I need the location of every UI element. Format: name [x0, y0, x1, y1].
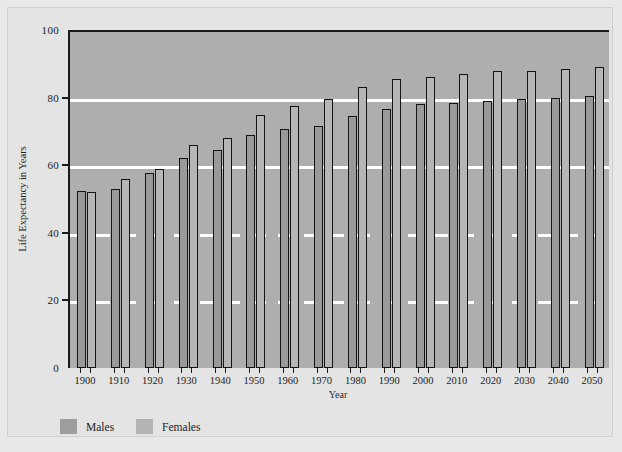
y-tick-label-100: 100 — [42, 24, 59, 36]
chart-legend: MalesFemales — [60, 419, 200, 434]
x-tick-mark-2010-1 — [462, 368, 463, 373]
bar-males-1920 — [145, 173, 154, 368]
x-tick-mark-2040-1 — [563, 368, 564, 373]
x-tick-mark-1970-0 — [317, 368, 318, 373]
bar-males-1950 — [246, 135, 255, 368]
x-tick-mark-1900-1 — [90, 368, 91, 373]
x-tick-mark-2050-0 — [587, 368, 588, 373]
y-axis-title: Life Expectancy in Years — [17, 146, 28, 252]
x-tick-mark-2050-1 — [597, 368, 598, 373]
x-tick-label-1920: 1920 — [142, 375, 163, 386]
x-tick-mark-2030-1 — [529, 368, 530, 373]
bar-males-2010 — [449, 103, 458, 368]
bar-males-1970 — [314, 126, 323, 368]
x-tick-mark-1940-0 — [215, 368, 216, 373]
x-tick-mark-2020-1 — [496, 368, 497, 373]
bar-females-1930 — [189, 145, 198, 368]
figure-frame: Life Expectancy in Years 020406080100 19… — [7, 7, 613, 437]
bar-males-2040 — [551, 98, 560, 368]
x-tick-mark-1960-1 — [293, 368, 294, 373]
bar-males-2020 — [483, 101, 492, 368]
bar-females-1980 — [358, 87, 367, 368]
x-tick-mark-1930-1 — [191, 368, 192, 373]
bar-females-2010 — [459, 74, 468, 368]
bar-females-2040 — [561, 69, 570, 368]
legend-swatch-females — [136, 419, 153, 434]
x-tick-label-2040: 2040 — [548, 375, 569, 386]
x-tick-label-1950: 1950 — [243, 375, 264, 386]
x-axis-title: Year — [329, 389, 347, 400]
x-tick-mark-1920-0 — [148, 368, 149, 373]
x-tick-mark-1950-1 — [259, 368, 260, 373]
y-tick-label-40: 40 — [47, 227, 59, 239]
bar-males-1910 — [111, 189, 120, 368]
x-tick-label-2020: 2020 — [480, 375, 501, 386]
x-tick-label-1940: 1940 — [210, 375, 231, 386]
x-tick-label-1980: 1980 — [345, 375, 366, 386]
x-tick-mark-1970-1 — [327, 368, 328, 373]
bar-females-1960 — [290, 106, 299, 368]
legend-item-females: Females — [136, 419, 200, 434]
bar-males-1980 — [348, 116, 357, 368]
bar-males-1960 — [280, 129, 289, 368]
x-tick-label-1960: 1960 — [277, 375, 298, 386]
bars-layer — [70, 32, 609, 368]
x-tick-label-2030: 2030 — [514, 375, 535, 386]
x-tick-label-2010: 2010 — [446, 375, 467, 386]
y-tick-label-80: 80 — [47, 92, 59, 104]
bar-females-2050 — [595, 67, 604, 368]
legend-swatch-males — [60, 419, 77, 434]
y-tick-label-0: 0 — [53, 362, 59, 374]
x-tick-mark-1980-1 — [360, 368, 361, 373]
x-tick-mark-1950-0 — [249, 368, 250, 373]
bar-females-2030 — [527, 71, 536, 368]
chart-figure: Life Expectancy in Years 020406080100 19… — [0, 0, 622, 452]
legend-label-males: Males — [86, 421, 114, 433]
bar-females-1910 — [121, 179, 130, 368]
y-tick-label-20: 20 — [47, 294, 59, 306]
bar-males-2050 — [585, 96, 594, 368]
x-tick-label-1990: 1990 — [379, 375, 400, 386]
bar-males-1930 — [179, 158, 188, 368]
bar-females-2000 — [426, 77, 435, 368]
x-tick-mark-2000-1 — [428, 368, 429, 373]
x-tick-mark-1920-1 — [158, 368, 159, 373]
x-tick-mark-1900-0 — [80, 368, 81, 373]
legend-item-males: Males — [60, 419, 114, 434]
x-tick-mark-1930-0 — [181, 368, 182, 373]
x-tick-mark-2000-0 — [418, 368, 419, 373]
x-tick-mark-2040-0 — [553, 368, 554, 373]
x-tick-mark-1910-0 — [114, 368, 115, 373]
x-tick-mark-1980-0 — [350, 368, 351, 373]
bar-females-1950 — [256, 115, 265, 369]
legend-label-females: Females — [162, 421, 200, 433]
x-tick-mark-2030-0 — [519, 368, 520, 373]
x-tick-mark-1940-1 — [225, 368, 226, 373]
bar-females-2020 — [493, 71, 502, 368]
bar-males-1940 — [213, 150, 222, 368]
bar-females-1900 — [87, 192, 96, 368]
y-axis: Life Expectancy in Years 020406080100 — [8, 30, 68, 368]
x-tick-label-2000: 2000 — [413, 375, 434, 386]
bar-males-1990 — [382, 109, 391, 368]
x-tick-mark-1960-0 — [283, 368, 284, 373]
x-tick-label-1910: 1910 — [108, 375, 129, 386]
x-tick-mark-1910-1 — [124, 368, 125, 373]
bar-females-1990 — [392, 79, 401, 368]
bar-females-1970 — [324, 99, 333, 368]
x-tick-mark-1990-1 — [394, 368, 395, 373]
bar-females-1920 — [155, 169, 164, 368]
plot-area — [68, 30, 609, 368]
x-tick-mark-2020-0 — [486, 368, 487, 373]
x-tick-label-1900: 1900 — [74, 375, 95, 386]
x-tick-label-1970: 1970 — [311, 375, 332, 386]
bar-males-2000 — [416, 104, 425, 368]
x-tick-label-2050: 2050 — [582, 375, 603, 386]
x-tick-mark-2010-0 — [452, 368, 453, 373]
bar-males-1900 — [77, 191, 86, 368]
y-tick-label-60: 60 — [47, 159, 59, 171]
bar-males-2030 — [517, 99, 526, 368]
x-tick-label-1930: 1930 — [176, 375, 197, 386]
bar-females-1940 — [223, 138, 232, 368]
x-tick-mark-1990-0 — [384, 368, 385, 373]
